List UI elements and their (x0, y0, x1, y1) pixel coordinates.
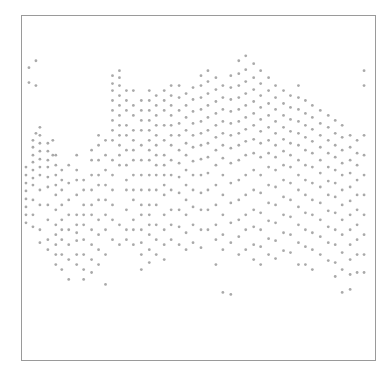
data-point (148, 139, 151, 142)
data-point (267, 89, 270, 92)
data-point (311, 268, 314, 271)
data-point (267, 166, 270, 169)
data-point (341, 136, 344, 139)
data-point (356, 223, 359, 226)
data-point (148, 174, 151, 177)
data-point (221, 194, 224, 197)
data-point (46, 248, 49, 251)
data-point (90, 189, 93, 192)
data-point (289, 182, 292, 185)
data-point (104, 228, 107, 231)
data-point (215, 184, 218, 187)
data-point (170, 223, 173, 226)
data-point (54, 154, 57, 157)
data-point (207, 104, 210, 107)
data-point (178, 84, 181, 87)
data-point (297, 189, 300, 192)
data-point (237, 218, 240, 221)
data-point (118, 94, 121, 97)
data-point (140, 129, 143, 132)
data-point (140, 119, 143, 122)
data-point (327, 209, 330, 212)
data-point (267, 114, 270, 117)
data-point (229, 86, 232, 89)
data-point (289, 130, 292, 133)
data-point (334, 261, 337, 264)
data-point (297, 108, 300, 111)
data-point (125, 149, 128, 152)
data-point (221, 174, 224, 177)
data-point (104, 253, 107, 256)
data-point (111, 82, 114, 85)
data-point (148, 149, 151, 152)
data-point (51, 154, 54, 157)
data-point (178, 122, 181, 125)
data-point (215, 100, 218, 103)
data-point (200, 74, 203, 77)
data-point (363, 174, 366, 177)
data-point (267, 102, 270, 105)
data-point (252, 169, 255, 172)
data-point (304, 124, 307, 127)
data-point (39, 189, 42, 192)
data-point (97, 144, 100, 147)
data-point (252, 152, 255, 155)
data-point (28, 66, 31, 69)
data-point (207, 189, 210, 192)
data-point (274, 204, 277, 207)
data-point (311, 116, 314, 119)
data-point (327, 259, 330, 262)
data-point (289, 94, 292, 97)
data-point (54, 194, 57, 197)
data-point (25, 221, 28, 224)
data-point (282, 102, 285, 105)
data-point (125, 99, 128, 102)
data-point (207, 80, 210, 83)
data-point (229, 202, 232, 205)
data-point (229, 293, 232, 296)
data-point (185, 199, 188, 202)
data-point (140, 159, 143, 162)
data-point (259, 192, 262, 195)
data-point (244, 248, 247, 251)
data-point (207, 208, 210, 211)
data-point (178, 192, 181, 195)
data-point (289, 233, 292, 236)
data-point (274, 186, 277, 189)
data-point (54, 164, 57, 167)
data-point (237, 179, 240, 182)
data-point (215, 204, 218, 207)
data-point (75, 154, 78, 157)
data-point (140, 109, 143, 112)
data-point (334, 132, 337, 135)
data-point (341, 233, 344, 236)
data-point (148, 159, 151, 162)
data-point (163, 109, 166, 112)
data-point (90, 149, 93, 152)
data-point (192, 189, 195, 192)
data-point (229, 147, 232, 150)
data-point (125, 134, 128, 137)
data-point (252, 208, 255, 211)
data-point (32, 199, 35, 202)
data-point (155, 253, 158, 256)
data-point (274, 239, 277, 242)
data-point (170, 174, 173, 177)
data-point (229, 134, 232, 137)
data-point (192, 86, 195, 89)
data-point (259, 94, 262, 97)
data-point (282, 213, 285, 216)
data-point (304, 194, 307, 197)
data-point (237, 120, 240, 123)
data-point (104, 283, 107, 286)
data-point (25, 182, 28, 185)
data-point (252, 138, 255, 141)
data-point (32, 169, 35, 172)
data-point (200, 144, 203, 147)
data-point (163, 213, 166, 216)
data-point (104, 184, 107, 187)
data-point (118, 69, 121, 72)
data-point (289, 215, 292, 218)
data-point (356, 139, 359, 142)
data-point (32, 146, 35, 149)
